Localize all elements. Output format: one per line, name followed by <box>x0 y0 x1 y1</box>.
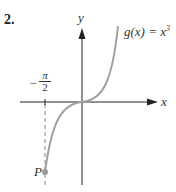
tick-label-fraction: π 2 <box>39 70 51 93</box>
function-label-text: g(x) = x <box>124 24 166 39</box>
tick-label-denominator: 2 <box>39 82 51 93</box>
x-axis-arrow-icon <box>147 99 158 106</box>
function-exponent: 3 <box>166 24 170 33</box>
y-axis-arrow-icon <box>79 28 86 39</box>
y-axis-label: y <box>78 10 84 26</box>
function-label: g(x) = x3 <box>124 24 170 40</box>
x-axis-label: x <box>161 94 167 110</box>
point-label: P <box>34 164 42 180</box>
point-p <box>42 169 48 175</box>
tick-label-sign: − <box>30 76 37 91</box>
